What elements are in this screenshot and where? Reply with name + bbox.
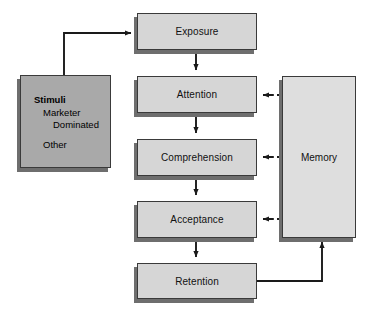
stimuli-line-title: Stimuli	[21, 94, 110, 107]
stimuli-line-dominated: Dominated	[21, 119, 110, 132]
node-memory[interactable]: Memory	[282, 76, 356, 238]
node-exposure-label: Exposure	[175, 26, 218, 37]
diagram-canvas: Stimuli Marketer Dominated Other Exposur…	[0, 0, 372, 314]
node-acceptance-label: Acceptance	[170, 214, 223, 225]
node-retention-label: Retention	[175, 276, 219, 287]
node-stimuli[interactable]: Stimuli Marketer Dominated Other	[20, 75, 111, 168]
stimuli-line-marketer: Marketer	[21, 107, 110, 120]
stimuli-spacer	[21, 132, 110, 139]
edge-stimuli-to-exposure	[64, 33, 131, 76]
node-attention[interactable]: Attention	[137, 76, 257, 113]
node-retention[interactable]: Retention	[137, 263, 257, 299]
edge-retention-to-memory	[256, 242, 322, 281]
node-comprehension-label: Comprehension	[161, 152, 233, 163]
stimuli-text-block: Stimuli Marketer Dominated Other	[21, 94, 110, 151]
stimuli-line-other: Other	[21, 139, 110, 152]
node-attention-label: Attention	[177, 89, 217, 100]
node-memory-label: Memory	[301, 152, 337, 163]
node-acceptance[interactable]: Acceptance	[137, 201, 257, 238]
node-exposure[interactable]: Exposure	[137, 13, 257, 50]
node-comprehension[interactable]: Comprehension	[137, 139, 257, 176]
